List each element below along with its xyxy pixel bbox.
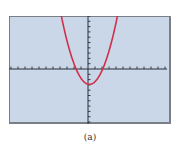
figure-caption: (a) [0, 132, 180, 142]
axes [9, 16, 167, 124]
graph-plot [9, 16, 171, 124]
figure: (a) [0, 0, 180, 153]
